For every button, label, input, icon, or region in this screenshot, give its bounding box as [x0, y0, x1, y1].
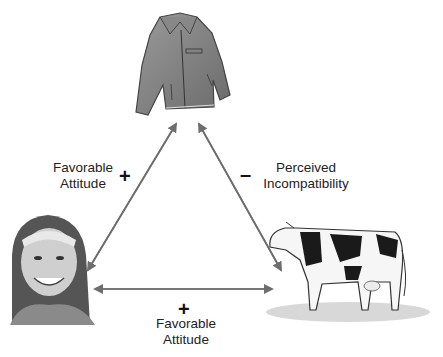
left-top-edge-label: Favorable Attitude — [48, 160, 118, 192]
label-line-2: Incompatibility — [256, 176, 356, 192]
label-line-2: Attitude — [150, 332, 222, 348]
left-right-edge-label: Favorable Attitude — [150, 316, 222, 348]
label-line-1: Favorable — [48, 160, 118, 176]
label-line-1: Perceived — [256, 160, 356, 176]
arrow-left-top — [88, 124, 176, 270]
right-top-edge-label: Perceived Incompatibility — [256, 160, 356, 192]
label-line-1: Favorable — [150, 316, 222, 332]
balance-triangle-diagram: Favorable Attitude + – Perceived Incompa… — [0, 0, 443, 357]
left-top-sign: + — [119, 166, 131, 186]
person-icon — [10, 215, 95, 325]
arrow-right-top — [199, 124, 281, 270]
cow-icon — [266, 222, 430, 322]
right-top-sign: – — [240, 164, 251, 184]
jacket-icon — [136, 13, 230, 115]
label-line-2: Attitude — [48, 176, 118, 192]
